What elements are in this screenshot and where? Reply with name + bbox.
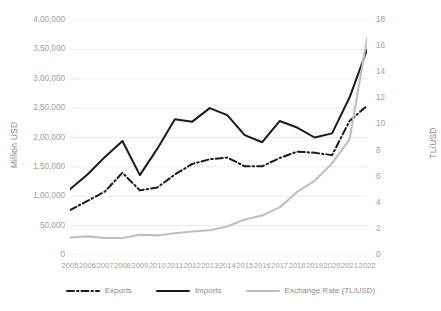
y-axis-left-tick-label: 1,50,000 bbox=[13, 162, 65, 171]
y-axis-left-tick-label: 1,00,000 bbox=[13, 191, 65, 200]
gridlines bbox=[70, 20, 367, 255]
y-axis-right-tick-label: 0 bbox=[376, 250, 406, 259]
y-axis-right-tick-label: 2 bbox=[376, 224, 406, 233]
x-axis-tick-label: 2022 bbox=[355, 261, 379, 270]
y-axis-right-title: TL/USD bbox=[428, 108, 438, 178]
y-axis-right-tick-label: 18 bbox=[376, 15, 406, 24]
legend-swatch-icon bbox=[246, 287, 280, 295]
legend-swatch-icon bbox=[66, 287, 100, 295]
y-axis-left-tick-label: 50,000 bbox=[13, 221, 65, 230]
y-axis-right-tick-label: 8 bbox=[376, 146, 406, 155]
y-axis-right-tick-label: 16 bbox=[376, 41, 406, 50]
legend-item[interactable]: Imports bbox=[156, 286, 222, 295]
y-axis-right-tick-label: 6 bbox=[376, 172, 406, 181]
chart-container: Million USD TL/USD 050,0001,00,0001,50,0… bbox=[0, 0, 441, 311]
plot-area bbox=[70, 20, 367, 255]
y-axis-left-tick-label: 3,00,000 bbox=[13, 74, 65, 83]
plot-svg bbox=[70, 20, 367, 255]
y-axis-left-tick-label: 3,50,000 bbox=[13, 44, 65, 53]
chart-legend: ExportsImportsExchange Rate (TL/USD) bbox=[0, 286, 441, 295]
y-axis-right-tick-label: 10 bbox=[376, 119, 406, 128]
series-line-exports bbox=[70, 106, 367, 210]
legend-item[interactable]: Exports bbox=[66, 286, 132, 295]
legend-label: Exchange Rate (TL/USD) bbox=[285, 286, 376, 295]
legend-label: Imports bbox=[195, 286, 222, 295]
legend-swatch-icon bbox=[156, 287, 190, 295]
y-axis-left-tick-label: 0 bbox=[13, 250, 65, 259]
series-lines bbox=[70, 39, 367, 238]
y-axis-left-tick-label: 2,50,000 bbox=[13, 103, 65, 112]
y-axis-left-tick-label: 4,00,000 bbox=[13, 15, 65, 24]
series-line-imports bbox=[70, 50, 367, 189]
legend-label: Exports bbox=[105, 286, 132, 295]
series-line-exchange-rate-tl-usd bbox=[70, 39, 367, 238]
y-axis-right-tick-label: 4 bbox=[376, 198, 406, 207]
y-axis-right-tick-label: 14 bbox=[376, 67, 406, 76]
y-axis-right-tick-label: 12 bbox=[376, 93, 406, 102]
legend-item[interactable]: Exchange Rate (TL/USD) bbox=[246, 286, 376, 295]
y-axis-left-tick-label: 2,00,000 bbox=[13, 133, 65, 142]
